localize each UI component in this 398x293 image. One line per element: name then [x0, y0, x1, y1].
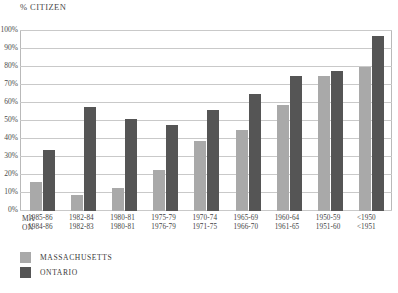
chart-legend: MASSACHUSETTS ONTARIO [20, 250, 112, 280]
y-tick-label: 60% [0, 97, 18, 106]
bars-area [21, 31, 391, 211]
x-tick-label-on: 1966-70 [234, 223, 259, 231]
y-tick-label: 30% [0, 151, 18, 160]
chart-title: % CITIZEN [20, 2, 66, 12]
y-tick-label: 70% [0, 79, 18, 88]
legend-item-ontario: ONTARIO [20, 265, 112, 280]
y-tick-label: 50% [0, 115, 18, 124]
legend-swatch-massachusetts [20, 252, 31, 263]
bar-group [359, 31, 384, 211]
legend-label-ontario: ONTARIO [40, 268, 78, 277]
y-tick-label: 20% [0, 169, 18, 178]
x-axis-labels: MA ON 1985-861984-861982-841982-831980-8… [0, 214, 398, 236]
bar-group [236, 31, 261, 211]
bar-group [277, 31, 302, 211]
x-tick-label-ma: 1982-84 [69, 214, 94, 222]
x-tick-label-ma: 1965-69 [234, 214, 259, 222]
bar-massachusetts [71, 195, 83, 211]
y-tick-label: 100% [0, 25, 18, 34]
x-tick-label-on: 1984-86 [28, 223, 53, 231]
bar-massachusetts [359, 67, 371, 211]
bar-ontario [331, 71, 343, 211]
bar-group [153, 31, 178, 211]
x-tick-label-ma: 1980-81 [110, 214, 135, 222]
x-tick-label-ma: 1950-59 [316, 214, 341, 222]
bar-ontario [207, 110, 219, 211]
y-tick-label: 80% [0, 61, 18, 70]
x-tick-label-on: 1980-81 [110, 223, 135, 231]
bar-massachusetts [236, 130, 248, 211]
legend-swatch-ontario [20, 267, 31, 278]
x-tick-label-on: 1982-83 [69, 223, 94, 231]
x-tick-label-on: 1976-79 [151, 223, 176, 231]
x-tick-label-ma: 1960-64 [275, 214, 300, 222]
bar-group [194, 31, 219, 211]
legend-label-massachusetts: MASSACHUSETTS [40, 253, 112, 262]
bar-group [112, 31, 137, 211]
x-tick-label-on: 1951-60 [316, 223, 341, 231]
x-tick-label-ma: 1985-86 [28, 214, 53, 222]
legend-item-massachusetts: MASSACHUSETTS [20, 250, 112, 265]
x-tick-label-on: <1951 [357, 223, 376, 231]
x-tick-label-ma: <1950 [357, 214, 376, 222]
x-tick-label-on: 1971-75 [192, 223, 217, 231]
y-tick-label: 90% [0, 43, 18, 52]
bar-ontario [372, 36, 384, 211]
bar-massachusetts [112, 188, 124, 211]
bar-massachusetts [277, 105, 289, 211]
bar-group [30, 31, 55, 211]
bar-ontario [249, 94, 261, 211]
y-tick-label: 40% [0, 133, 18, 142]
bar-chart: % CITIZEN 100%90%80%70%60%50%40%30%20%10… [0, 0, 398, 293]
bar-massachusetts [318, 76, 330, 211]
y-tick-label: 10% [0, 187, 18, 196]
bar-massachusetts [194, 141, 206, 211]
bar-ontario [166, 125, 178, 211]
y-tick-label: 0% [0, 205, 18, 214]
bar-ontario [43, 150, 55, 211]
bar-ontario [84, 107, 96, 211]
bar-group [71, 31, 96, 211]
x-tick-label-ma: 1975-79 [151, 214, 176, 222]
x-tick-label-on: 1961-65 [275, 223, 300, 231]
x-tick-label-ma: 1970-74 [192, 214, 217, 222]
bar-massachusetts [153, 170, 165, 211]
bar-ontario [125, 119, 137, 211]
bar-group [318, 31, 343, 211]
bar-ontario [290, 76, 302, 211]
bar-massachusetts [30, 182, 42, 211]
